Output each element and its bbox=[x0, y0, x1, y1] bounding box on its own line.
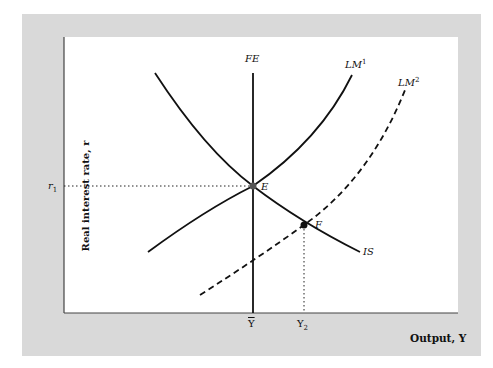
lm1-label: LM1 bbox=[345, 58, 366, 70]
e-label: E bbox=[261, 181, 268, 192]
x-axis-label: Output, Y bbox=[410, 332, 466, 344]
is-label: IS bbox=[363, 246, 374, 257]
ybar-tick: Y bbox=[248, 318, 255, 329]
f-label: F bbox=[315, 219, 322, 230]
point-e bbox=[250, 183, 257, 190]
r1-tick: r1 bbox=[48, 180, 57, 194]
y-axis-label: Real interest rate, r bbox=[80, 141, 91, 252]
lm2-label: LM2 bbox=[398, 76, 419, 88]
point-f bbox=[301, 222, 308, 229]
fe-label: FE bbox=[245, 53, 259, 64]
y2-tick: Y2 bbox=[297, 318, 308, 332]
lm2-curve bbox=[200, 90, 405, 295]
